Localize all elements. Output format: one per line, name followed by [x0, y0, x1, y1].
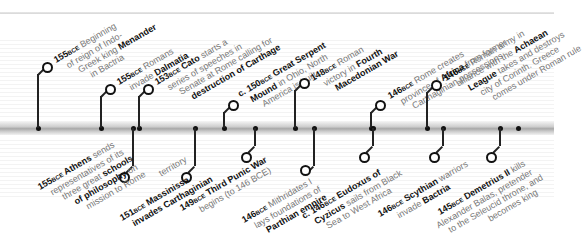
event-ring-icon [300, 165, 311, 176]
stem [313, 128, 315, 166]
event-ring-icon [431, 80, 442, 91]
event-ring-icon [105, 84, 116, 95]
stem [223, 112, 225, 128]
bar-dot [516, 126, 521, 131]
stem [442, 128, 444, 146]
event-ring-icon [429, 152, 440, 163]
event-ring-icon [42, 62, 53, 73]
event-ring-icon [228, 100, 239, 111]
event-ring-icon [299, 78, 310, 89]
event-ring-icon [359, 152, 370, 163]
stem [426, 92, 428, 128]
event-ring-icon [486, 152, 497, 163]
event-ring-icon [143, 84, 154, 95]
top-rule [0, 12, 554, 14]
stem [294, 90, 296, 128]
stem [372, 128, 374, 146]
stem [254, 128, 256, 146]
timeline-bar [0, 121, 554, 135]
stem [499, 128, 501, 146]
event-ring-icon [375, 100, 386, 111]
stem [100, 96, 102, 128]
stem [37, 74, 39, 128]
stem [194, 128, 196, 166]
stem [138, 96, 140, 128]
